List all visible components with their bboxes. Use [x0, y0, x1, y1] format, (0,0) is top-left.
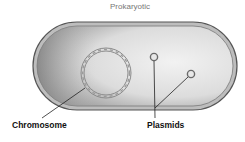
chromosome-label: Chromosome [12, 120, 67, 130]
plasmid-1 [150, 53, 157, 60]
plasmid-2 [187, 70, 194, 77]
plasmids-label: Plasmids [147, 120, 184, 130]
